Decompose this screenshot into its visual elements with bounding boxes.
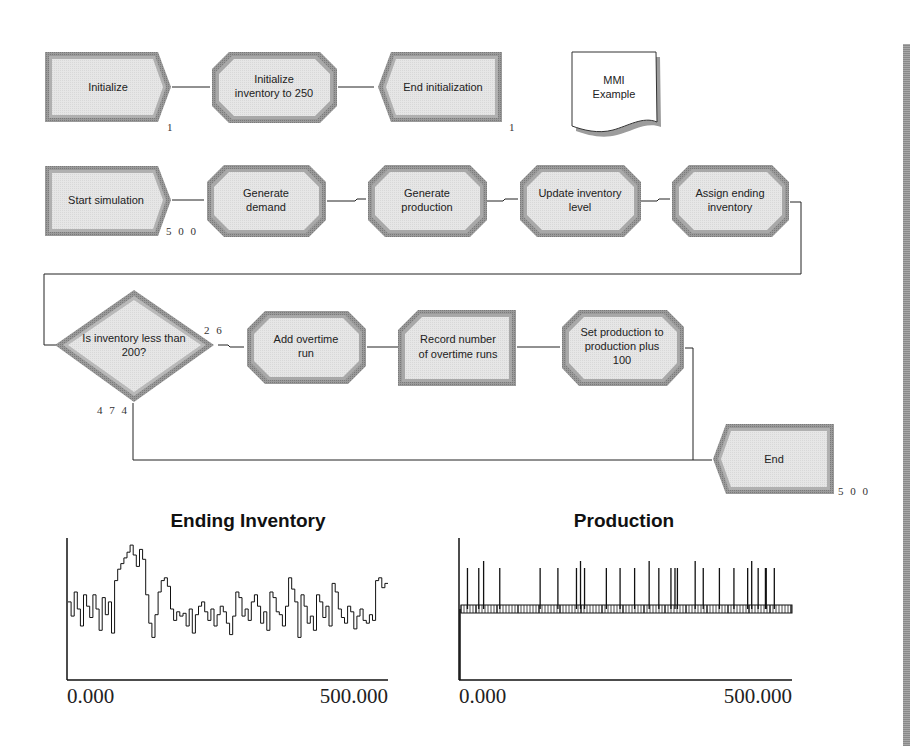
note-line: MMI xyxy=(603,74,624,86)
x-tick-max: 500.000 xyxy=(320,684,388,708)
decide-label-line: 200? xyxy=(122,346,146,358)
module-label-line: inventory to 250 xyxy=(235,87,313,99)
module-label: End initialization xyxy=(403,81,483,93)
module-add-overtime-run[interactable]: Add overtime run xyxy=(247,311,366,384)
module-label-line: run xyxy=(298,347,314,359)
module-label-line: Update inventory xyxy=(538,187,622,199)
module-count: 1 xyxy=(167,121,175,133)
module-count: 5 0 0 xyxy=(166,225,198,237)
diagram-canvas: Initialize 1 Initialize inventory to 250… xyxy=(0,0,924,746)
module-label-line: Generate xyxy=(404,187,450,199)
module-end[interactable]: End 5 0 0 xyxy=(713,424,870,497)
module-label: End xyxy=(764,453,784,465)
x-tick-max: 500.000 xyxy=(724,684,792,708)
module-label-line: level xyxy=(569,201,592,213)
note-mmi-example[interactable]: MMI Example xyxy=(572,52,661,137)
module-end-initialization[interactable]: End initialization 1 xyxy=(378,52,517,133)
connector-set-to-end[interactable] xyxy=(685,348,712,460)
module-count: 5 0 0 xyxy=(838,485,870,497)
module-set-production[interactable]: Set production to production plus 100 xyxy=(562,310,684,386)
module-label-line: inventory xyxy=(708,201,753,213)
module-label-line: Assign ending xyxy=(695,187,764,199)
module-label-line: 100 xyxy=(613,354,631,366)
module-label-line: Generate xyxy=(243,187,289,199)
connector-update-to-assign[interactable] xyxy=(641,199,670,201)
module-label-line: demand xyxy=(246,201,286,213)
x-tick-min: 0.000 xyxy=(67,684,114,708)
module-assign-ending-inventory[interactable]: Assign ending inventory xyxy=(672,165,789,237)
module-init-inventory[interactable]: Initialize inventory to 250 xyxy=(212,52,337,123)
x-tick-min: 0.000 xyxy=(459,684,506,708)
module-label-line: of overtime runs xyxy=(419,348,498,360)
module-label-line: production xyxy=(401,201,452,213)
module-label-line: production plus xyxy=(585,340,660,352)
chart-title: Production xyxy=(574,510,674,531)
connector-demand-to-production[interactable] xyxy=(327,199,366,201)
chart-production: Production 0.000 500.000 xyxy=(459,510,792,708)
decide-true-count: 2 6 xyxy=(204,324,224,336)
module-generate-production[interactable]: Generate production xyxy=(368,165,487,237)
ending-inventory-series xyxy=(68,545,388,637)
decide-label-line: Is inventory less than xyxy=(82,332,185,344)
note-line: Example xyxy=(593,88,636,100)
vertical-scrollbar[interactable] xyxy=(903,44,910,746)
production-series xyxy=(460,561,792,680)
module-start-simulation[interactable]: Start simulation 5 0 0 xyxy=(45,166,198,237)
module-decide-inventory[interactable]: Is inventory less than 200? 2 6 4 7 4 xyxy=(55,290,224,416)
decide-false-count: 4 7 4 xyxy=(97,404,129,416)
connectors xyxy=(44,87,801,460)
module-update-inventory[interactable]: Update inventory level xyxy=(520,165,641,237)
chart-ending-inventory: Ending Inventory 0.000 500.000 xyxy=(67,510,388,708)
module-label-line: Set production to xyxy=(580,326,663,338)
module-label: Start simulation xyxy=(68,194,144,206)
connector-production-to-update[interactable] xyxy=(487,199,518,201)
module-label-line: Initialize xyxy=(254,73,294,85)
module-label-line: Add overtime xyxy=(274,333,339,345)
module-label: Initialize xyxy=(88,81,128,93)
chart-title: Ending Inventory xyxy=(170,510,326,531)
module-initialize[interactable]: Initialize 1 xyxy=(45,52,175,133)
connector-decide-true-to-overtime[interactable] xyxy=(218,345,244,347)
module-generate-demand[interactable]: Generate demand xyxy=(207,165,326,237)
module-label-line: Record number xyxy=(420,333,496,345)
module-count: 1 xyxy=(509,121,517,133)
module-record-overtime-runs[interactable]: Record number of overtime runs xyxy=(398,310,516,386)
connector-decide-false-to-end[interactable] xyxy=(133,403,693,460)
